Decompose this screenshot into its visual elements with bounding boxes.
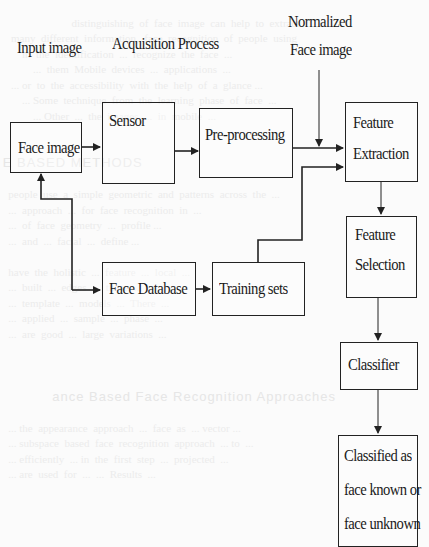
- classified-result-node: Classified as face known or face unknown: [338, 435, 418, 547]
- feature-extraction-node: Feature Extraction: [345, 102, 418, 182]
- feature-selection-node: Feature Selection: [346, 216, 417, 298]
- training-sets-node-label: Training sets: [219, 273, 288, 305]
- feature-selection-label-line1: Feature: [355, 219, 395, 251]
- classifier-node-label: Classifier: [348, 349, 399, 381]
- sensor-node-label: Sensor: [109, 105, 146, 137]
- sensor-node: Sensor: [102, 102, 175, 184]
- preprocessing-node: Pre-processing: [199, 108, 293, 178]
- feature-selection-label-line2: Selection: [355, 249, 405, 281]
- face-database-node-label: Face Database: [109, 273, 187, 305]
- feature-extraction-label-line1: Feature: [353, 107, 393, 139]
- face-image-node-label: Face image: [18, 132, 80, 164]
- classified-label-line3: face unknown: [344, 508, 420, 540]
- face-image-node: Face image: [10, 122, 82, 173]
- classified-label-line1: Classified as: [344, 440, 412, 472]
- feature-extraction-label-line2: Extraction: [353, 138, 409, 170]
- preprocessing-node-label: Pre-processing: [205, 119, 285, 151]
- classifier-node: Classifier: [340, 342, 418, 390]
- training-sets-node: Training sets: [212, 262, 305, 316]
- face-database-node: Face Database: [102, 262, 196, 316]
- classified-label-line2: face known or: [344, 474, 421, 506]
